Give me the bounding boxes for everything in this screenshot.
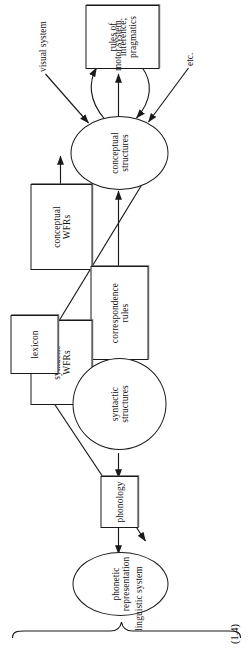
label-linguistic-system: linguistic system [132, 566, 143, 631]
figure-number: (1.4) [228, 624, 239, 644]
node-conceptual-wfrs-label: conceptualWFRs [51, 206, 71, 248]
node-syntactic-structures[interactable]: syntacticstructures [72, 358, 166, 450]
label-motor-system: motor system [113, 20, 122, 71]
edge-visual-to-conceptual [45, 74, 88, 123]
node-syntactic-structures-label: syntacticstructures [109, 385, 129, 422]
node-lexicon[interactable]: lexicon [10, 315, 58, 374]
node-conceptual-wfrs[interactable]: conceptualWFRs [30, 184, 92, 270]
node-phonetic-representation[interactable]: phoneticrepresentation [72, 552, 168, 616]
label-visual-system: visual system [38, 21, 47, 72]
node-correspondence-rules-label: correspondencerules [109, 283, 129, 343]
figure-rotation-wrapper: conceptualWFRs conceptualstructures rule… [0, 0, 251, 652]
edge-conceptual-to-rules [91, 68, 104, 119]
node-phonology-label: phonology [114, 482, 124, 523]
node-phonetic-representation-label: phoneticrepresentation [110, 557, 130, 612]
node-lexicon-label: lexicon [29, 330, 39, 358]
diagram-canvas: conceptualWFRs conceptualstructures rule… [0, 0, 251, 652]
label-etc: etc. [185, 53, 194, 66]
node-correspondence-rules[interactable]: correspondencerules [90, 266, 148, 360]
linguistic-system-brace [12, 622, 240, 638]
edge-etc-to-conceptual [148, 68, 188, 122]
edge-rules-to-conceptual [136, 68, 149, 118]
node-conceptual-structures-label: conceptualstructures [109, 132, 129, 174]
node-conceptual-structures[interactable]: conceptualstructures [70, 116, 168, 190]
node-phonology[interactable]: phonology [100, 476, 138, 528]
